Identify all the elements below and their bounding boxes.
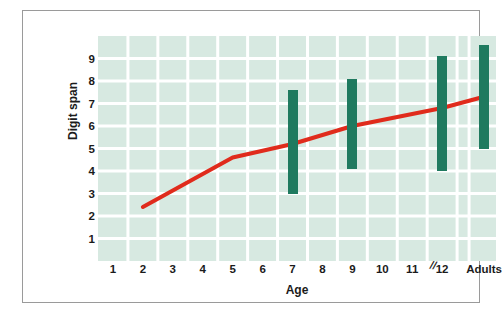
y-tick-label-1: 1: [89, 233, 95, 245]
y-tick-label-4: 4: [89, 165, 95, 177]
x-tick-label-9: 9: [349, 263, 355, 275]
x-axis-tick-labels: 123456789101112Adults: [98, 263, 496, 281]
range-bar-9: [347, 79, 357, 169]
figure-frame: Digit span 123456789 123456789101112Adul…: [22, 10, 480, 303]
x-tick-label-2: 2: [140, 263, 146, 275]
x-tick-label-7: 7: [289, 263, 295, 275]
x-tick-label-12: 12: [436, 263, 449, 275]
x-tick-label-6: 6: [259, 263, 265, 275]
x-tick-label-3: 3: [170, 263, 176, 275]
x-tick-label-5: 5: [229, 263, 235, 275]
range-bar-adults: [479, 45, 489, 149]
x-tick-label-10: 10: [376, 263, 389, 275]
y-tick-label-2: 2: [89, 210, 95, 222]
y-tick-label-3: 3: [89, 188, 95, 200]
y-tick-label-6: 6: [89, 120, 95, 132]
x-tick-label-8: 8: [319, 263, 325, 275]
x-tick-label-4: 4: [200, 263, 206, 275]
x-tick-label-11: 11: [406, 263, 418, 275]
x-tick-label-1: 1: [110, 263, 116, 275]
y-tick-label-7: 7: [89, 98, 95, 110]
y-tick-label-8: 8: [89, 75, 95, 87]
x-tick-label-adults: Adults: [466, 263, 502, 275]
range-bar-7: [288, 90, 298, 194]
y-tick-label-5: 5: [89, 143, 95, 155]
mean-digit-span-line: [143, 97, 484, 207]
y-axis-tick-labels: 123456789: [75, 36, 95, 261]
plot-area: [98, 36, 496, 261]
x-axis-title: Age: [98, 283, 496, 297]
y-tick-label-9: 9: [89, 53, 95, 65]
range-bar-12: [437, 56, 447, 171]
